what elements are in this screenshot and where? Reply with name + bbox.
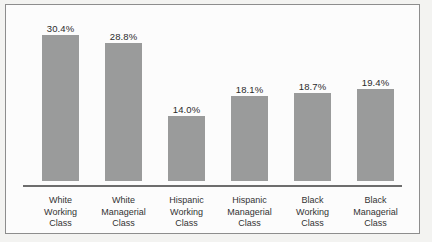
bar-category-label: Black Managerial Class xyxy=(342,195,409,230)
bar-group: 28.8% White Managerial Class xyxy=(105,5,142,233)
bar-category-line: Managerial xyxy=(342,207,409,219)
bar[interactable] xyxy=(231,96,268,181)
bar-category-line: White xyxy=(27,195,94,207)
bar-category-label: White Working Class xyxy=(27,195,94,230)
bar-value-label: 18.7% xyxy=(280,81,345,92)
bar-value-label: 14.0% xyxy=(154,104,219,115)
bar-category-line: Class xyxy=(279,218,346,230)
bar-category-label: Hispanic Working Class xyxy=(153,195,220,230)
bar-category-line: Class xyxy=(90,218,157,230)
bar-value-label: 28.8% xyxy=(91,31,156,42)
bar-group: 30.4% White Working Class xyxy=(42,5,79,233)
bar-category-line: Class xyxy=(27,218,94,230)
bar-group: 18.7% Black Working Class xyxy=(294,5,331,233)
bar-category-label: White Managerial Class xyxy=(90,195,157,230)
bar[interactable] xyxy=(105,43,142,181)
bar-value-label: 19.4% xyxy=(343,77,408,88)
bar-category-label: Black Working Class xyxy=(279,195,346,230)
bar-category-line: Class xyxy=(342,218,409,230)
bar-category-line: Black xyxy=(279,195,346,207)
bar-category-line: Working xyxy=(153,207,220,219)
chart-frame: 30.4% White Working Class 28.8% White Ma… xyxy=(5,4,420,234)
bar-category-line: Hispanic xyxy=(153,195,220,207)
bar-group: 19.4% Black Managerial Class xyxy=(357,5,394,233)
bar[interactable] xyxy=(294,93,331,181)
bar-category-line: Black xyxy=(342,195,409,207)
bar-group: 18.1% Hispanic Managerial Class xyxy=(231,5,268,233)
bar-value-label: 18.1% xyxy=(217,84,282,95)
bar-group: 14.0% Hispanic Working Class xyxy=(168,5,205,233)
bar-category-line: Managerial xyxy=(216,207,283,219)
bar-category-line: Class xyxy=(153,218,220,230)
bar[interactable] xyxy=(357,89,394,181)
bar[interactable] xyxy=(168,116,205,181)
bar-category-line: White xyxy=(90,195,157,207)
bar-value-label: 30.4% xyxy=(28,23,93,34)
bar[interactable] xyxy=(42,35,79,181)
axis-baseline xyxy=(23,185,402,187)
bar-category-label: Hispanic Managerial Class xyxy=(216,195,283,230)
bar-category-line: Working xyxy=(27,207,94,219)
bar-category-line: Working xyxy=(279,207,346,219)
bar-category-line: Hispanic xyxy=(216,195,283,207)
plot-area: 30.4% White Working Class 28.8% White Ma… xyxy=(6,5,419,233)
bar-category-line: Class xyxy=(216,218,283,230)
bar-category-line: Managerial xyxy=(90,207,157,219)
